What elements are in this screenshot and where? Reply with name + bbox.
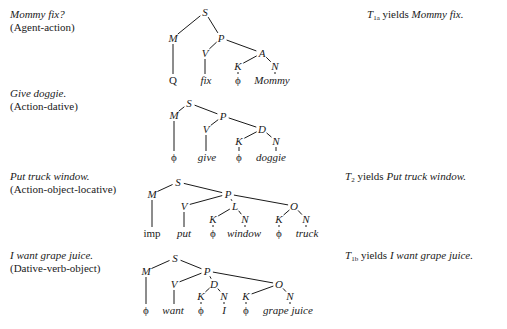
tree-leaf: give [198,151,216,163]
tree-node-p: P [224,188,232,200]
parse-trees: SMPVAKNQfixϕMommySMPVDKNϕgiveϕdoggieSMPV… [0,0,507,329]
tree-edge [209,42,216,49]
tree-node-v: V [203,123,211,135]
tree-leaf: ϕ [210,227,216,239]
tree-edge [284,210,290,215]
tree-edge [178,16,201,34]
tree-leaf: ϕ [143,304,149,316]
tree-edge [180,273,202,282]
tree-edge [252,286,274,294]
tree-edge [195,105,218,114]
tree-node-s: S [172,252,178,264]
tree-2: SMPVDKNϕgiveϕdoggie [168,97,286,163]
tree-node-n: N [271,135,280,147]
tree-leaf: doggie [256,151,286,163]
tree-node-k: K [274,213,283,225]
tree-node-m: M [146,188,157,200]
tree-edge [181,260,202,268]
tree-leaf: ϕ [235,74,241,86]
tree-leaf: imp [143,227,161,239]
tree-node-o: O [290,200,298,212]
tree-edge [205,288,209,292]
tree-leaf: put [176,227,192,239]
tree-edge [208,17,218,33]
tree-edge [151,260,169,268]
tree-leaf: ϕ [198,304,204,316]
tree-edge [244,132,256,138]
tree-leaf: ϕ [243,304,249,316]
tree-node-o: O [275,278,283,290]
tree-node-d: D [209,278,218,290]
tree-node-s: S [186,97,192,109]
tree-1: SMPVAKNQfixϕMommy [167,6,289,86]
tree-4: SMPVDOKNKNϕwantϕIϕgrape juice [140,252,313,316]
tree-edge [157,185,172,192]
tree-leaf: Q [169,74,177,86]
tree-node-v: V [202,47,210,59]
tree-leaf: ϕ [236,151,242,163]
tree-node-s: S [175,176,181,188]
tree-node-p: P [217,32,225,44]
tree-edge [266,57,271,62]
tree-node-m: M [167,32,178,44]
tree-node-v: V [181,200,189,212]
tree-edge [234,195,288,205]
tree-leaf: truck [296,227,320,239]
tree-edge [211,120,218,126]
tree-node-s: S [202,6,208,18]
tree-edge [184,183,222,192]
tree-node-n: N [270,60,279,72]
tree-3: SMPVLOKNKNimpputϕwindowϕtruck [143,176,319,239]
tree-node-k: K [208,213,217,225]
tree-node-p: P [219,110,227,122]
tree-node-k: K [241,290,250,302]
tree-node-n: N [301,213,310,225]
tree-edge [243,56,256,63]
tree-leaf: ϕ [276,227,282,239]
tree-edge [229,118,257,127]
tree-leaf: fix [201,74,212,86]
tree-edge [227,40,257,51]
tree-edge [179,107,185,112]
tree-leaf: window [227,227,262,239]
tree-node-n: N [285,290,294,302]
tree-node-a: A [258,47,266,59]
tree-node-n: N [219,290,228,302]
tree-edge [213,272,273,283]
tree-node-m: M [168,109,179,121]
tree-node-p: P [203,265,211,277]
tree-node-k: K [234,135,243,147]
tree-node-l: L [231,200,238,212]
tree-leaf: Mommy [253,74,290,86]
tree-leaf: ϕ [171,151,177,163]
tree-node-k: K [196,290,205,302]
tree-node-d: D [257,123,266,135]
tree-edge [218,209,230,216]
tree-node-m: M [140,265,151,277]
tree-edge [267,133,272,137]
tree-node-n: N [240,213,249,225]
tree-node-k: K [233,60,242,72]
tree-leaf: grape juice [263,304,313,316]
tree-edge [190,196,222,205]
tree-leaf: I [221,304,227,316]
tree-node-v: V [171,278,179,290]
tree-leaf: want [162,304,184,316]
